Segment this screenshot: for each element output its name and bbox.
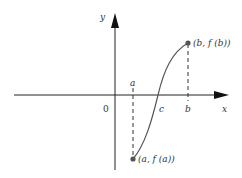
y-axis-arrow-icon [111,13,119,28]
point-b-label: (b, f (b)) [193,38,231,48]
x-axis-label: x [222,104,227,114]
function-curve [133,43,188,159]
tick-c-label: c [159,104,164,114]
tick-a-label: a [130,78,135,88]
origin-label: 0 [103,104,109,114]
y-axis-label: y [99,12,106,22]
point-a-label: (a, f (a)) [138,154,175,164]
point-a [130,156,135,161]
tick-b-label: b [185,104,191,114]
function-graph: y x 0 a b c (a, f (a)) (b, f (b)) [0,0,242,178]
point-b [185,40,190,45]
x-axis-arrow-icon [214,91,229,99]
